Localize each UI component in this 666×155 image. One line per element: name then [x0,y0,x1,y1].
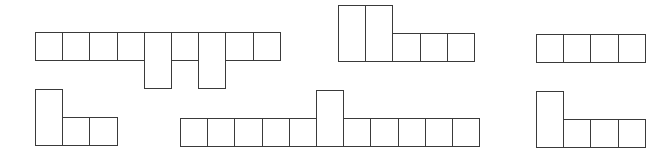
grid-cell [536,91,564,148]
grid-cell [398,118,426,147]
grid-cell [262,118,290,147]
grid-cell [343,118,371,147]
grid-cell [234,118,262,147]
grid-cell [207,118,235,147]
grid-cell [171,32,199,61]
grid-cell [392,33,420,62]
grid-cell [117,32,145,61]
grid-cell [618,119,646,148]
grid-cell [35,89,63,146]
grid-cell [198,32,226,89]
grid-cell [447,33,475,62]
grid-cell [62,32,90,61]
grid-cell [618,34,646,63]
grid-cell [420,33,448,62]
grid-cell [289,118,317,147]
grid-cell [89,32,117,61]
grid-cell [144,32,172,89]
grid-cell [316,90,344,147]
grid-cell [338,5,366,62]
grid-cell [452,118,480,147]
grid-cell [590,119,618,148]
grid-cell [370,118,398,147]
grid-cell [62,117,90,146]
grid-cell [590,34,618,63]
grid-cell [35,32,63,61]
grid-cell [536,34,564,63]
grid-cell [365,5,393,62]
grid-cell [253,32,281,61]
grid-cell [225,32,253,61]
grid-cell [563,119,591,148]
grid-cell [563,34,591,63]
grid-cell [425,118,453,147]
grid-cell [89,117,117,146]
grid-cell [180,118,208,147]
